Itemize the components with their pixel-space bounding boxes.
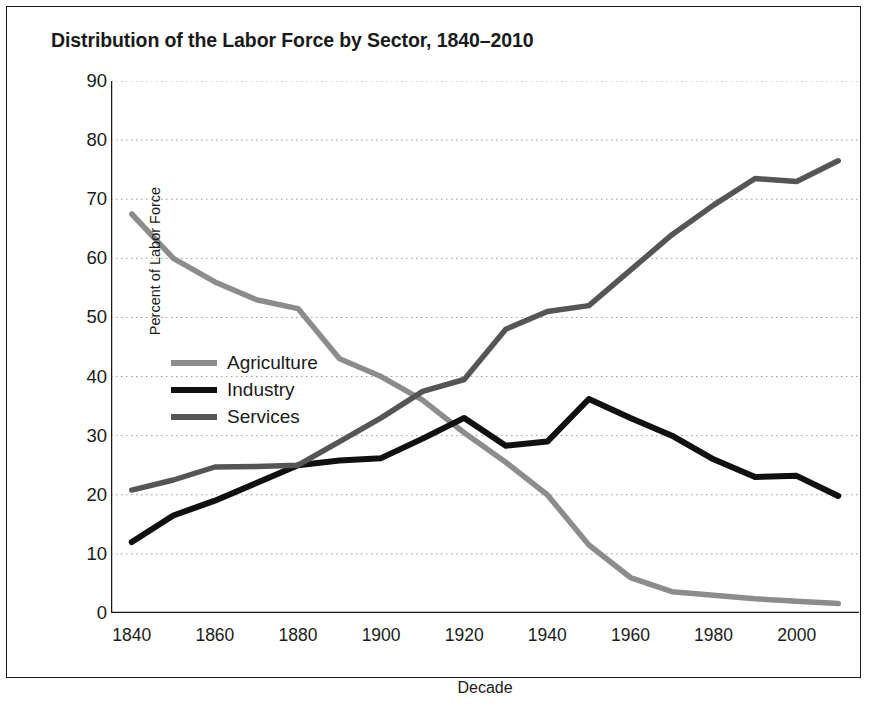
legend-label-services: Services bbox=[227, 407, 300, 426]
legend-label-industry: Industry bbox=[227, 380, 295, 399]
x-tick-label-1860: 1860 bbox=[170, 625, 260, 646]
figure-frame: Distribution of the Labor Force by Secto… bbox=[6, 6, 861, 678]
plot-area: Percent of Labor Force Decade 0102030405… bbox=[111, 81, 859, 613]
y-tick-label-10: 10 bbox=[37, 543, 107, 565]
gridlines-group bbox=[111, 81, 859, 554]
y-tick-label-90: 90 bbox=[37, 70, 107, 92]
y-tick-label-0: 0 bbox=[37, 602, 107, 624]
legend-item-industry[interactable]: Industry bbox=[171, 376, 318, 403]
y-tick-label-20: 20 bbox=[37, 484, 107, 506]
chart-legend: AgricultureIndustryServices bbox=[171, 349, 318, 430]
x-tick-label-1840: 1840 bbox=[87, 625, 177, 646]
axis-ticks-group bbox=[111, 81, 838, 613]
x-tick-label-1940: 1940 bbox=[502, 625, 592, 646]
x-tick-label-1960: 1960 bbox=[585, 625, 675, 646]
y-axis-title: Percent of Labor Force bbox=[147, 161, 163, 361]
x-tick-label-1900: 1900 bbox=[336, 625, 426, 646]
y-tick-label-80: 80 bbox=[37, 129, 107, 151]
chart-title: Distribution of the Labor Force by Secto… bbox=[51, 29, 533, 52]
legend-swatch-services bbox=[171, 414, 217, 420]
line-chart-svg bbox=[111, 81, 859, 613]
x-tick-label-2000: 2000 bbox=[752, 625, 842, 646]
x-axis-title: Decade bbox=[111, 679, 859, 697]
y-tick-label-70: 70 bbox=[37, 188, 107, 210]
legend-swatch-industry bbox=[171, 387, 217, 393]
series-line-services bbox=[132, 161, 838, 490]
x-tick-label-1980: 1980 bbox=[669, 625, 759, 646]
x-tick-label-1920: 1920 bbox=[419, 625, 509, 646]
y-tick-label-60: 60 bbox=[37, 247, 107, 269]
legend-label-agriculture: Agriculture bbox=[227, 353, 318, 372]
axes-group bbox=[111, 81, 859, 613]
y-tick-label-30: 30 bbox=[37, 425, 107, 447]
legend-item-services[interactable]: Services bbox=[171, 403, 318, 430]
legend-item-agriculture[interactable]: Agriculture bbox=[171, 349, 318, 376]
y-tick-label-40: 40 bbox=[37, 366, 107, 388]
legend-swatch-agriculture bbox=[171, 360, 217, 366]
y-tick-label-50: 50 bbox=[37, 306, 107, 328]
x-tick-label-1880: 1880 bbox=[253, 625, 343, 646]
